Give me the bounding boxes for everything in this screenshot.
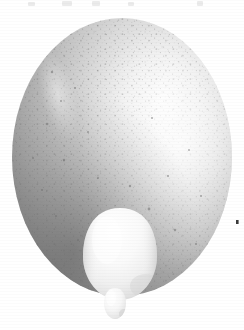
scan-banding (0, 0, 244, 330)
egg-comparison-photo: Comparative photograph of three bird egg… (0, 0, 244, 330)
photo-canvas (0, 0, 244, 330)
